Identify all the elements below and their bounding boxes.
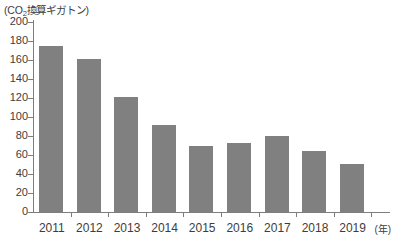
x-axis-tick [259, 212, 260, 217]
y-axis-tick-label: 60 [16, 149, 28, 160]
plot-area [33, 22, 393, 212]
x-axis-tick-label: 2019 [334, 222, 372, 235]
y-axis-tick-label: 140 [10, 73, 28, 84]
y-axis-tick-label: 160 [10, 54, 28, 65]
bar [340, 164, 364, 212]
x-axis-unit-label: (年) [374, 224, 391, 236]
x-axis-line [33, 212, 390, 213]
bar [77, 59, 101, 212]
bar [265, 136, 289, 212]
x-axis-tick [71, 212, 72, 217]
x-axis-tick-label: 2014 [146, 222, 184, 235]
bar [39, 46, 63, 212]
x-axis-tick [146, 212, 147, 217]
x-axis-tick-label: 2018 [296, 222, 334, 235]
x-axis-tick-label: 2011 [33, 222, 71, 235]
y-axis-tick-label: 180 [10, 35, 28, 46]
x-axis-tick-label: 2013 [108, 222, 146, 235]
bar [189, 146, 213, 213]
y-axis-tick-label: 120 [10, 92, 28, 103]
bar [114, 97, 138, 212]
y-axis-tick-label: 20 [16, 187, 28, 198]
y-axis-tick [28, 212, 33, 213]
x-axis-tick [296, 212, 297, 217]
x-axis-tick [334, 212, 335, 217]
x-axis-tick [221, 212, 222, 217]
bar-chart: (CO2換算ギガトン) 020406080100120140160180200 … [0, 0, 402, 245]
y-axis-tick-label: 40 [16, 168, 28, 179]
x-axis-tick-label: 2016 [221, 222, 259, 235]
y-axis-tick-label: 0 [22, 206, 28, 217]
bar [302, 151, 326, 212]
x-axis-tick [108, 212, 109, 217]
unit-caption-rest: 換算ギガトン) [27, 4, 89, 16]
y-axis-tick-label: 100 [10, 111, 28, 122]
x-axis-tick-label: 2012 [71, 222, 109, 235]
y-axis-tick-label: 80 [16, 130, 28, 141]
bar [227, 143, 251, 212]
x-axis-tick [183, 212, 184, 217]
x-axis-tick [371, 212, 372, 217]
x-axis-tick-label: 2015 [183, 222, 221, 235]
y-axis-tick-label: 200 [10, 16, 28, 27]
x-axis-tick-label: 2017 [259, 222, 297, 235]
bar [152, 125, 176, 212]
